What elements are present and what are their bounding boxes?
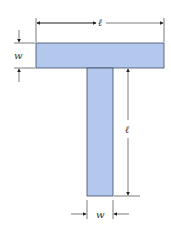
top-width-label: w — [14, 50, 23, 61]
t-section-diagram: ℓ w ℓ w — [0, 0, 171, 231]
top-flange — [36, 43, 164, 68]
top-length-label: ℓ — [98, 17, 102, 28]
stem-width-label: w — [96, 209, 105, 220]
stem-length-label: ℓ — [125, 124, 129, 135]
stem-web — [87, 68, 113, 196]
